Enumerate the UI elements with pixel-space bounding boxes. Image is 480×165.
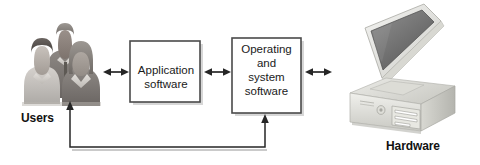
operating-system-software-box xyxy=(232,38,304,116)
person-left-figure xyxy=(24,38,60,104)
users-caption: Users xyxy=(21,111,54,125)
users-illustration-icon xyxy=(22,23,101,106)
hardware-caption: Hardware xyxy=(386,139,440,153)
application-software-box xyxy=(130,41,203,105)
connector-operating-to-hardware-arrow xyxy=(305,68,332,76)
connector-users-to-application-arrow xyxy=(103,68,129,76)
connector-application-to-operating-arrow xyxy=(204,68,231,76)
hardware-computer-illustration-icon xyxy=(350,4,455,134)
diagram-canvas: Application software Operating and syste… xyxy=(0,0,480,165)
